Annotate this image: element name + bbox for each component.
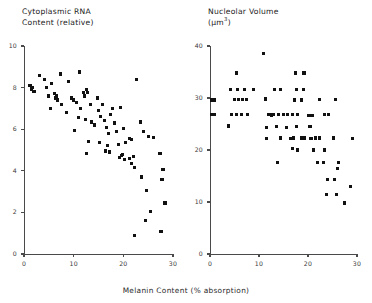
y-axis-line [24,46,25,254]
scatter-figure: Cytoplasmic RNAContent (relative) 108642… [0,0,372,303]
data-point [73,129,76,132]
data-point [227,124,230,127]
x-tick [209,254,210,257]
x-tick-label: 10 [249,260,269,267]
data-point [314,136,317,139]
data-point [85,152,88,155]
data-point [318,98,321,101]
data-point [336,167,339,170]
data-point [86,91,89,94]
data-point [252,88,255,91]
data-point [111,107,114,110]
y-tick-label: 6 [0,125,17,132]
data-point [132,155,135,158]
data-point [295,88,298,91]
data-point [233,98,236,101]
x-tick [172,254,173,257]
data-point [60,103,63,106]
panel-cytoplasmic-rna: Cytoplasmic RNAContent (relative) 108642… [0,0,186,280]
data-point [103,119,106,122]
y-tick [21,212,24,213]
data-point [325,193,328,196]
shared-x-axis-label: Melanin Content (% absorption) [0,286,372,295]
data-point [47,94,50,97]
data-point [124,141,127,144]
y-tick-label: 0 [186,250,203,257]
data-point [49,107,52,110]
data-point [295,125,298,128]
data-point [241,98,244,101]
data-point [229,88,232,91]
data-point [240,113,243,116]
data-point [65,111,68,114]
data-point [312,148,315,151]
y-tick [21,129,24,130]
data-point [334,98,337,101]
data-point [79,107,82,110]
data-point [38,74,41,77]
data-point [323,148,326,151]
data-point [89,103,92,106]
x-tick-label: 0 [200,260,220,267]
y-tick-label: 0 [0,250,17,257]
x-tick-label: 30 [347,260,367,267]
data-point [130,138,133,141]
x-tick [73,254,74,257]
x-tick [356,254,357,257]
data-point [32,90,35,93]
x-tick-label: 10 [64,260,84,267]
data-point [75,101,78,104]
data-point [104,149,107,152]
data-point [119,106,122,109]
data-point [139,120,142,123]
x-tick [123,254,124,257]
data-point [109,113,112,116]
data-point [246,113,249,116]
y-tick [21,170,24,171]
data-point [243,88,246,91]
x-tick-label: 20 [113,260,133,267]
data-point [128,157,131,160]
y-tick-label: 4 [0,167,17,174]
data-point [117,143,120,146]
data-point [30,86,33,89]
data-point [97,109,100,112]
data-point [311,114,314,117]
data-point [307,114,310,117]
data-point [293,98,296,101]
data-point [122,127,125,130]
y-tick-label: 10 [0,42,17,49]
data-point [78,70,81,73]
data-point [107,132,110,135]
data-point [106,144,109,147]
y-tick-label: 20 [186,146,203,153]
data-point [147,135,150,138]
data-point [142,130,145,133]
data-point [302,136,305,139]
data-point [265,137,268,140]
data-point [130,162,133,165]
data-point [115,130,118,133]
data-point [335,193,338,196]
panel-right-title: Nucleolar Volume(μm3) [208,7,279,28]
data-point [160,178,163,181]
data-point [272,113,275,116]
data-point [277,113,280,116]
data-point [108,150,111,153]
data-point [309,137,312,140]
x-tick-label: 0 [14,260,34,267]
data-point [96,96,99,99]
data-point [50,82,53,85]
data-point [302,71,305,74]
panel-right-title-unit-open: (μm [208,18,224,27]
y-tick [207,149,210,150]
data-point [333,178,336,181]
data-point [77,116,80,119]
panel-right-title-line1: Nucleolar Volume [208,7,279,16]
panel-right-title-unit-close: ) [228,18,231,27]
x-tick [307,254,308,257]
data-point [133,234,136,237]
x-axis-line [210,254,357,255]
data-point [101,103,104,106]
data-point [275,125,278,128]
